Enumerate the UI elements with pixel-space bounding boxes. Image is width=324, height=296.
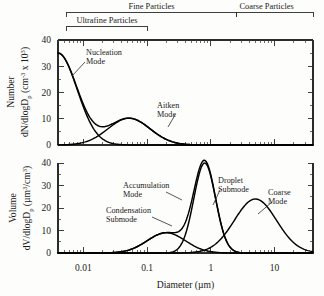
annotation-accumulation-line2: Mode	[123, 190, 142, 199]
curve-number-total	[58, 53, 313, 145]
y-axis-title-number: NumberdN/dlogDp (cm-3 x 103)	[5, 47, 32, 137]
y-axis-title-number-units: dN/dlogDp (cm-3 x 103)	[19, 47, 32, 137]
top-tick-row	[58, 40, 313, 46]
annotation-droplet: DropletSubmode	[213, 176, 249, 205]
annotation-condensation-line1: Condensation	[106, 206, 151, 215]
y-tick-label: 10	[42, 226, 52, 236]
y-axis-title-volume-primary: Volume	[7, 193, 18, 223]
panel-volume: 010203040	[42, 158, 314, 258]
bracket-label-coarse: Coarse Particles	[240, 2, 294, 11]
annotation-nucleation-line2: Mode	[86, 57, 105, 66]
annotation-droplet-line1: Droplet	[218, 176, 244, 185]
aerosol-size-distribution-figure: 0102030400102030400.010.1110Diameter (µm…	[0, 0, 324, 296]
annotation-coarse: CoarseMode	[258, 188, 291, 214]
y-tick-label: 30	[42, 62, 52, 72]
y-axis-title-volume-units: dV/dlogDp (µm3/cm3)	[21, 166, 34, 250]
annotation-coarse-line2: Mode	[268, 197, 287, 206]
annotation-accumulation-line1: Accumulation	[123, 181, 169, 190]
annotation-condensation-leader	[152, 217, 172, 226]
annotation-accumulation: AccumulationMode	[123, 181, 182, 200]
y-tick-label: 0	[46, 248, 51, 258]
annotation-nucleation-line1: Nucleation	[86, 48, 122, 57]
chart-canvas: 0102030400102030400.010.1110Diameter (µm…	[0, 0, 324, 296]
y-axis-title-volume: VolumedV/dlogDp (µm3/cm3)	[7, 166, 34, 250]
curve-coarse-mode	[58, 199, 313, 253]
x-axis-title: Diameter (µm)	[157, 279, 214, 291]
x-tick-label: 0.1	[141, 263, 153, 273]
y-axis-title-number-primary: Number	[5, 75, 16, 107]
annotation-accumulation-leader	[166, 192, 182, 200]
annotation-droplet-line2: Submode	[218, 185, 249, 194]
panel-number: 010203040	[42, 35, 314, 150]
y-tick-label: 40	[42, 158, 52, 168]
annotation-nucleation-leader	[72, 62, 85, 76]
y-tick-label: 0	[46, 140, 51, 150]
curve-accumulation-mode	[58, 160, 313, 253]
curve-droplet-submode	[58, 163, 313, 253]
annotation-condensation: CondensationSubmode	[106, 206, 172, 226]
x-tick-label: 10	[270, 263, 280, 273]
annotation-aitken-line1: Aitken	[157, 101, 179, 110]
annotation-coarse-line1: Coarse	[268, 188, 291, 197]
y-tick-label: 30	[42, 181, 52, 191]
annotation-aitken: AitkenMode	[157, 101, 179, 127]
bracket-label-ultrafine: Ultrafine Particles	[76, 16, 137, 25]
x-tick-label: 0.01	[75, 263, 92, 273]
size-range-brackets: Fine ParticlesCoarse ParticlesUltrafine …	[67, 2, 313, 31]
y-tick-label: 20	[42, 88, 52, 98]
annotation-condensation-line2: Submode	[106, 215, 137, 224]
y-tick-label: 40	[42, 35, 52, 45]
y-tick-label: 10	[42, 114, 52, 124]
bracket-label-fine: Fine Particles	[129, 2, 175, 11]
x-axis-labels: 0.010.1110Diameter (µm)	[75, 263, 280, 291]
curve-nucleation-mode	[58, 53, 313, 145]
x-tick-label: 1	[208, 263, 213, 273]
annotation-nucleation: NucleationMode	[72, 48, 122, 76]
y-tick-label: 20	[42, 203, 52, 213]
